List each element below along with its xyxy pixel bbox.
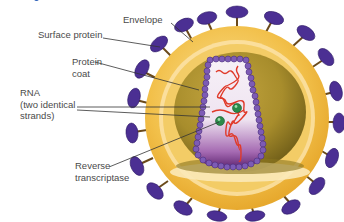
hiv-structure-diagram: Envelope Surface protein Protein coat RN… [0, 0, 344, 222]
figure-title-fragment [22, 0, 192, 2]
label-surface-protein: Surface protein [38, 29, 102, 41]
enzyme-1 [233, 104, 242, 113]
label-envelope: Envelope [123, 14, 163, 26]
label-rna: RNA (two identical strands) [20, 87, 75, 122]
label-protein-coat: Protein coat [72, 56, 102, 79]
figure-bullet-icon [34, 0, 39, 1]
enzyme-2 [216, 117, 225, 126]
label-reverse-transcriptase: Reverse transcriptase [75, 160, 129, 183]
